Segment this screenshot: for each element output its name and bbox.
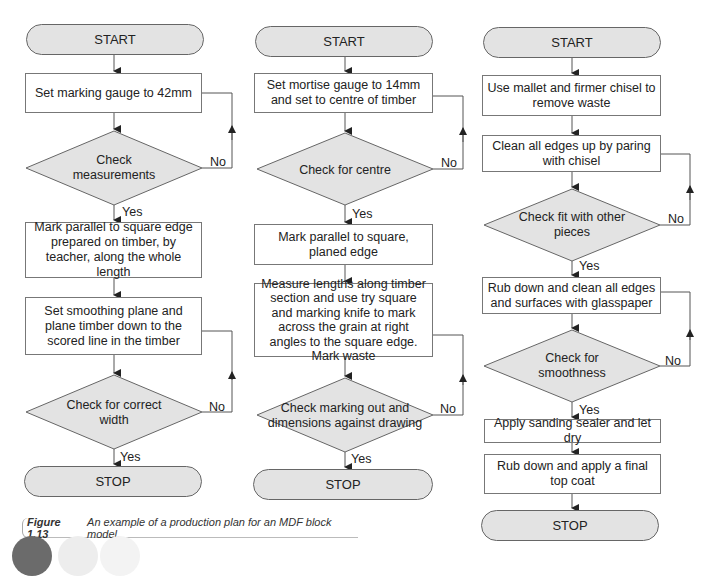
decision-label: Check for correct width — [56, 398, 172, 428]
terminal-label: STOP — [325, 477, 360, 492]
stop-terminal-2: STOP — [253, 469, 433, 500]
decorative-circle — [58, 536, 98, 576]
yes-label: Yes — [120, 450, 140, 464]
no-label: No — [209, 400, 225, 414]
process-box: Set marking gauge to 42mm — [25, 73, 202, 113]
yes-label: Yes — [122, 205, 142, 219]
terminal-label: START — [551, 35, 592, 50]
process-text: Clean all edges up by paring with chisel — [487, 139, 656, 169]
process-text: Set marking gauge to 42mm — [35, 86, 192, 101]
stop-terminal-1: STOP — [24, 466, 202, 497]
yes-label: Yes — [352, 207, 372, 221]
terminal-label: START — [94, 32, 135, 47]
process-box: Set mortise gauge to 14mm and set to cen… — [254, 73, 433, 113]
decision-text: Check for correct width — [56, 393, 172, 433]
decision-label: Check fit with other pieces — [514, 210, 630, 240]
yes-label: Yes — [579, 403, 599, 417]
process-box: Mark parallel to square edge prepared on… — [25, 222, 202, 278]
decision-label: Check for centre — [299, 163, 391, 178]
terminal-label: START — [323, 34, 364, 49]
terminal-label: STOP — [95, 474, 130, 489]
no-label: No — [668, 212, 684, 226]
decision-text: Check for smoothness — [514, 346, 630, 386]
process-text: Mark parallel to square edge prepared on… — [30, 220, 197, 280]
decision-label: Check measurements — [56, 153, 172, 183]
decorative-circle — [12, 536, 52, 576]
yes-label: Yes — [579, 259, 599, 273]
decision-text: Check fit with other pieces — [514, 205, 630, 245]
process-box: Rub down and apply a final top coat — [484, 454, 661, 494]
process-box: Set smoothing plane and plane timber dow… — [25, 297, 202, 355]
no-label: No — [210, 155, 226, 169]
start-terminal-2: START — [255, 26, 433, 57]
decision-label: Check marking out and dimensions against… — [262, 401, 428, 431]
process-text: Set mortise gauge to 14mm and set to cen… — [259, 78, 428, 108]
decision-label: Check for smoothness — [514, 351, 630, 381]
yes-label: Yes — [351, 452, 371, 466]
process-text: Apply sanding sealer and let dry — [489, 416, 656, 446]
stop-terminal-3: STOP — [481, 510, 659, 541]
decorative-circle — [100, 536, 140, 576]
figure-caption: Figure 1.13 An example of a production p… — [22, 518, 358, 538]
process-text: Use mallet and firmer chisel to remove w… — [487, 81, 656, 111]
caption-text: An example of a production plan for an M… — [87, 516, 358, 540]
process-box: Clean all edges up by paring with chisel — [482, 135, 661, 172]
process-text: Rub down and apply a final top coat — [489, 459, 656, 489]
no-label: No — [441, 156, 457, 170]
decision-text: Check for centre — [287, 150, 403, 190]
terminal-label: STOP — [552, 518, 587, 533]
start-terminal-1: START — [26, 24, 204, 55]
process-text: Mark parallel to square, planed edge — [259, 230, 428, 260]
process-box: Rub down and clean all edges and surface… — [482, 277, 661, 314]
process-text: Measure lengths along timber section and… — [259, 277, 428, 364]
process-text: Rub down and clean all edges and surface… — [487, 281, 656, 311]
process-box: Measure lengths along timber section and… — [254, 283, 433, 357]
process-box: Mark parallel to square, planed edge — [254, 224, 433, 265]
start-terminal-3: START — [483, 27, 661, 58]
decision-text: Check marking out and dimensions against… — [262, 393, 428, 439]
no-label: No — [665, 354, 681, 368]
process-box: Apply sanding sealer and let dry — [484, 419, 661, 443]
process-text: Set smoothing plane and plane timber dow… — [30, 304, 197, 349]
process-box: Use mallet and firmer chisel to remove w… — [482, 75, 661, 116]
no-label: No — [440, 402, 456, 416]
decision-text: Check measurements — [56, 148, 172, 188]
